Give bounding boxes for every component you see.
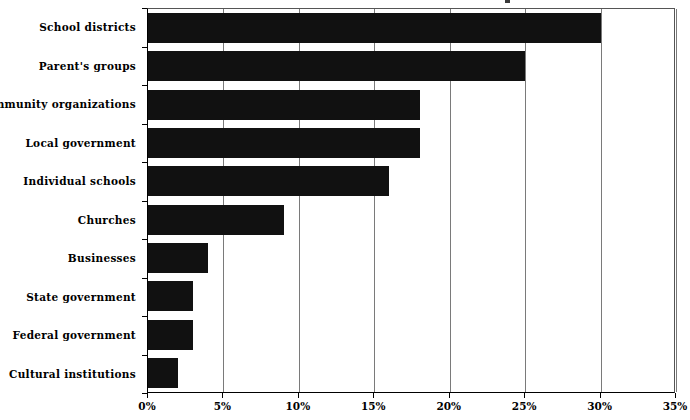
x-tick-label: 10% — [286, 400, 311, 412]
bar — [148, 205, 284, 235]
bar-band — [148, 315, 674, 353]
bar — [148, 166, 389, 196]
x-tick-mark — [298, 393, 299, 398]
x-tick-mark — [524, 393, 525, 398]
category-label: Cultural institutions — [0, 355, 142, 394]
y-tick-mark — [142, 239, 147, 240]
bar — [148, 128, 420, 158]
category-label: Federal government — [0, 316, 142, 355]
y-tick-mark — [142, 8, 147, 9]
bar — [148, 13, 601, 43]
x-tick-label: 30% — [587, 400, 612, 412]
bar-chart: School districts Parent's groups Communi… — [0, 0, 690, 420]
x-tick-label: 20% — [436, 400, 461, 412]
x-tick-label: 15% — [361, 400, 386, 412]
x-tick-label: 25% — [512, 400, 537, 412]
x-tick-label: 0% — [138, 400, 155, 412]
category-label: Churches — [0, 201, 142, 240]
category-label: Parent's groups — [0, 47, 142, 86]
x-tick-mark — [222, 393, 223, 398]
bar-band — [148, 86, 674, 124]
y-tick-mark — [142, 278, 147, 279]
bar-band — [148, 162, 674, 200]
y-tick-mark — [142, 47, 147, 48]
category-label: Individual schools — [0, 162, 142, 201]
y-tick-mark — [142, 124, 147, 125]
x-tick-label: 5% — [214, 400, 231, 412]
bar — [148, 90, 420, 120]
category-label: School districts — [0, 8, 142, 47]
x-tick-mark — [373, 393, 374, 398]
gridline — [676, 9, 677, 392]
bar — [148, 281, 193, 311]
category-label: Local government — [0, 124, 142, 163]
y-tick-mark — [142, 355, 147, 356]
bar-band — [148, 9, 674, 47]
category-label: State government — [0, 278, 142, 317]
bar — [148, 51, 525, 81]
category-label: Businesses — [0, 239, 142, 278]
scan-artifact — [505, 0, 510, 3]
x-tick-mark — [600, 393, 601, 398]
x-tick-mark — [147, 393, 148, 398]
x-tick-label: 35% — [663, 400, 688, 412]
bar-band — [148, 354, 674, 392]
x-tick-mark — [675, 393, 676, 398]
bar-band — [148, 124, 674, 162]
bar-band — [148, 277, 674, 315]
category-axis-labels: School districts Parent's groups Communi… — [0, 8, 142, 393]
bar — [148, 320, 193, 350]
bar — [148, 243, 208, 273]
bars-layer — [148, 9, 674, 392]
y-tick-mark — [142, 393, 147, 394]
bar-band — [148, 47, 674, 85]
y-tick-mark — [142, 316, 147, 317]
y-tick-mark — [142, 201, 147, 202]
x-tick-mark — [449, 393, 450, 398]
category-label: Community organizations — [0, 85, 142, 124]
y-tick-mark — [142, 85, 147, 86]
plot-area — [147, 8, 675, 393]
bar — [148, 358, 178, 388]
y-tick-mark — [142, 162, 147, 163]
bar-band — [148, 200, 674, 238]
bar-band — [148, 239, 674, 277]
